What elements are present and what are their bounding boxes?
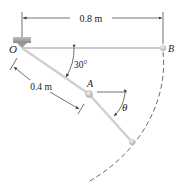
trajectory-arc — [88, 52, 164, 182]
angle-arc-30 — [66, 48, 74, 77]
dimension-label-0-8m: 0.8 m — [80, 13, 103, 24]
label-b: B — [168, 43, 174, 54]
dimension-line-lower — [50, 92, 79, 109]
pendulum-diagram: 0.8 m 30° 0.4 m θ O A B — [0, 0, 178, 191]
angle-label-30: 30° — [74, 60, 88, 70]
dimension-label-0-4m: 0.4 m — [30, 82, 52, 92]
angle-label-theta: θ — [122, 101, 128, 113]
support-triangle — [17, 43, 27, 48]
ball-end — [129, 139, 135, 145]
ball-b — [160, 45, 166, 51]
label-a: A — [86, 78, 94, 89]
ball-a — [86, 91, 93, 98]
dimension-0-8m: 0.8 m — [22, 12, 163, 44]
dimension-line-upper — [14, 67, 30, 80]
label-o: O — [9, 43, 17, 55]
